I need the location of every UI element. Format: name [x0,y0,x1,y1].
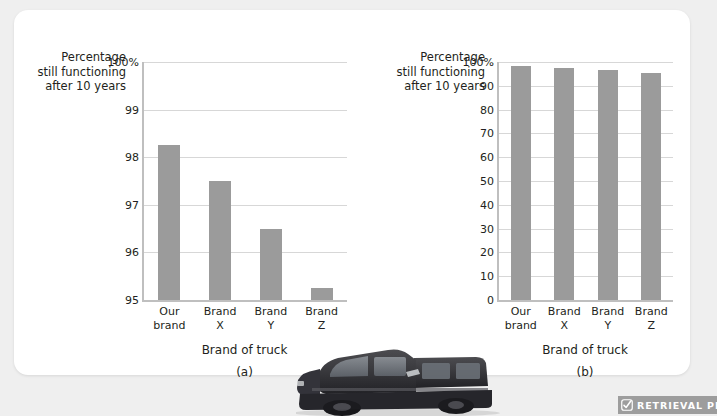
x-axis-tick-label: Our brand [153,305,185,332]
check-circle-icon [621,399,633,411]
gridline [499,62,673,63]
gridline [144,110,347,111]
y-axis-tick-label: 96 [125,246,139,259]
y-axis-tick-label: 30 [480,222,494,235]
x-axis-tick-label: Our brand [505,305,537,332]
x-axis-tick-label: Brand Y [591,305,624,332]
plot-area-a: 9596979899100%Our brandBrand XBrand YBra… [142,62,347,302]
y-axis-tick-label: 70 [480,127,494,140]
x-axis-tick-label: Brand Z [635,305,668,332]
y-axis-tick-label: 99 [125,103,139,116]
bar [641,73,661,300]
x-axis-tick-label: Brand X [548,305,581,332]
y-axis-tick-label: 95 [125,294,139,307]
y-axis-tick-label: 90 [480,79,494,92]
bar [511,66,531,300]
y-axis-tick-label: 100% [463,56,494,69]
y-axis-caption-line: after 10 years [396,79,485,94]
x-axis-tick-label: Brand Y [254,305,287,332]
retrieval-practice-label: RETRIEVAL PRACTICE [637,400,717,411]
y-axis-tick-label: 98 [125,151,139,164]
chart-panel-a: Percentagestill functioningafter 10 year… [14,10,374,375]
bar [209,181,231,300]
bar [158,145,180,300]
chart-panel-b: Percentagestill functioningafter 10 year… [369,10,690,375]
retrieval-practice-badge[interactable]: RETRIEVAL PRACTICE [618,396,717,414]
pickup-truck-photo [296,336,564,416]
y-axis-tick-label: 50 [480,175,494,188]
y-axis-tick-label: 60 [480,151,494,164]
y-axis-tick-label: 80 [480,103,494,116]
y-axis-caption-line: after 10 years [37,79,126,94]
y-axis-tick-label: 97 [125,198,139,211]
bar [554,68,574,300]
figure-card: Percentagestill functioningafter 10 year… [14,10,690,375]
y-axis-tick-label: 20 [480,246,494,259]
y-axis-tick-label: 40 [480,198,494,211]
y-axis-tick-label: 0 [487,294,494,307]
gridline [144,62,347,63]
x-axis-tick-label: Brand Z [305,305,338,332]
x-axis-tick-label: Brand X [204,305,237,332]
y-axis-tick-label: 10 [480,270,494,283]
figure-page: Percentagestill functioningafter 10 year… [0,0,717,416]
y-axis-tick-label: 100% [108,56,139,69]
bar [598,70,618,300]
plot-area-b: 0102030405060708090100%Our brandBrand XB… [497,62,673,302]
bar [260,229,282,300]
bar [311,288,333,300]
truck-illustration [296,336,564,416]
